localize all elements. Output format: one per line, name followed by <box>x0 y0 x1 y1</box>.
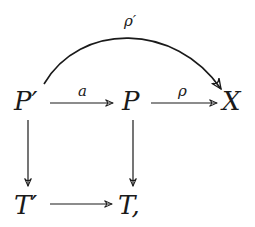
commutative-diagram: P′ P X T′ T, a ρ ρ′ <box>0 0 255 227</box>
label-rho: ρ <box>178 84 187 99</box>
label-rho-prime: ρ′ <box>124 14 136 29</box>
node-x: X <box>222 88 241 114</box>
node-p-prime: P′ <box>14 88 37 114</box>
node-p: P <box>122 88 140 114</box>
label-a: a <box>78 84 87 99</box>
arrow-rho-prime <box>44 38 221 89</box>
node-t-prime: T′ <box>14 192 37 218</box>
node-t: T, <box>118 192 140 218</box>
